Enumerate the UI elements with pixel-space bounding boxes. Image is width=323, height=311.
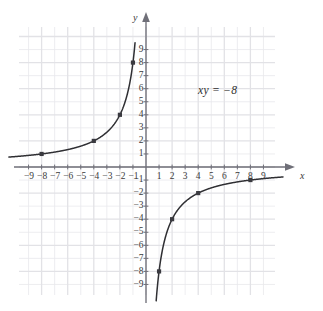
y-tick-label-3: 3: [139, 123, 144, 133]
x-tick-label-neg3: −3: [102, 172, 112, 182]
y-tick-label-8: 8: [139, 58, 144, 68]
plot-point: [40, 152, 44, 156]
y-tick-label-4: 4: [139, 110, 144, 120]
x-tick-label-neg8: −8: [37, 172, 47, 182]
plot-point: [170, 217, 174, 221]
y-tick-label-neg6: −6: [133, 241, 143, 251]
y-tick-label-neg4: −4: [133, 214, 143, 224]
x-axis-label: x: [300, 171, 304, 181]
plot-point: [196, 191, 200, 195]
x-tick-label-5: 5: [209, 172, 214, 182]
equation-annotation: xy = −8: [198, 84, 237, 96]
y-tick-label-9: 9: [139, 45, 144, 55]
x-tick-label-neg6: −6: [63, 172, 73, 182]
plot-point: [131, 61, 135, 65]
y-axis-label: y: [133, 13, 137, 23]
axes-lines: [14, 12, 295, 303]
grid-major: [19, 27, 275, 295]
x-tick-label-7: 7: [235, 172, 240, 182]
x-tick-label-6: 6: [222, 172, 227, 182]
plot-point: [118, 113, 122, 117]
y-tick-label-neg3: −3: [133, 201, 143, 211]
y-tick-label-neg7: −7: [133, 254, 143, 264]
curve-branch-lower-right: [156, 177, 283, 301]
y-tick-label-neg2: −2: [133, 188, 143, 198]
x-tick-label-8: 8: [248, 172, 253, 182]
x-tick-label-3: 3: [183, 172, 188, 182]
grid-minor: [19, 27, 275, 295]
x-tick-label-neg5: −5: [76, 172, 86, 182]
x-tick-label-neg7: −7: [50, 172, 60, 182]
y-tick-label-1: 1: [139, 149, 144, 159]
y-tick-label-neg5: −5: [133, 227, 143, 237]
y-axis-arrowhead: [142, 12, 150, 22]
coordinate-plane-svg: [0, 0, 323, 311]
y-tick-label-neg9: −9: [133, 280, 143, 290]
y-tick-label-7: 7: [139, 71, 144, 81]
y-tick-label-5: 5: [139, 97, 144, 107]
x-tick-label-1: 1: [157, 172, 162, 182]
x-axis-arrowhead: [285, 163, 295, 171]
y-tick-label-neg8: −8: [133, 267, 143, 277]
plot-point: [157, 269, 161, 273]
x-tick-label-neg2: −2: [115, 172, 125, 182]
x-tick-label-4: 4: [196, 172, 201, 182]
y-tick-label-2: 2: [139, 136, 144, 146]
x-tick-label-9: 9: [261, 172, 266, 182]
y-tick-label-6: 6: [139, 84, 144, 94]
graph-figure: −9−8−7−6−5−4−3−2−1123456789987654321−1−2…: [0, 0, 323, 311]
x-tick-label-2: 2: [170, 172, 175, 182]
curve-branch-upper-left: [9, 43, 135, 157]
plot-point: [92, 139, 96, 143]
y-tick-label-neg1: −1: [133, 175, 143, 185]
x-tick-label-neg9: −9: [24, 172, 34, 182]
x-tick-label-neg4: −4: [89, 172, 99, 182]
